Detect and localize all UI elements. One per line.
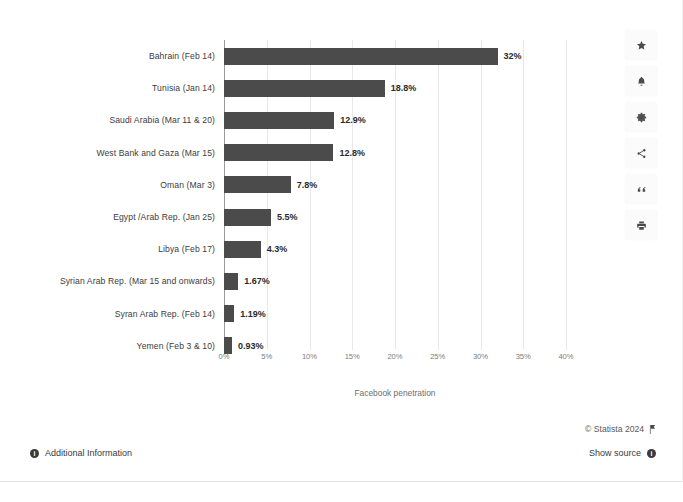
bar-row[interactable]: Syran Arab Rep. (Feb 14)1.19% (224, 298, 566, 330)
settings-gear-icon (636, 112, 647, 123)
plot-area: Bahrain (Feb 14)32%Tunisia (Jan 14)18.8%… (224, 40, 566, 362)
additional-information-label: Additional Information (45, 448, 132, 458)
notification-bell-icon (636, 76, 647, 87)
print-icon (636, 220, 647, 231)
share-button[interactable] (625, 138, 657, 168)
print-button[interactable] (625, 210, 657, 240)
x-axis-tick-label: 25% (430, 352, 445, 361)
bar-category-label: Tunisia (Jan 14) (152, 83, 215, 93)
notification-bell-button[interactable] (625, 66, 657, 96)
bar-row[interactable]: Oman (Mar 3)7.8% (224, 169, 566, 201)
show-source-link[interactable]: Show source i (589, 448, 656, 458)
bar-category-label: Bahrain (Feb 14) (149, 51, 215, 61)
bar-category-label: Egypt /Arab Rep. (Jan 25) (113, 212, 215, 222)
bar-value-label: 1.19% (240, 309, 266, 319)
favorite-star-button[interactable] (625, 30, 657, 60)
x-axis-tick-label: 35% (516, 352, 531, 361)
bar-value-label: 18.8% (391, 83, 417, 93)
flag-icon (649, 425, 656, 434)
bar-category-label: Oman (Mar 3) (160, 180, 215, 190)
bar[interactable]: 4.3% (224, 241, 261, 258)
bar-value-label: 12.9% (340, 115, 366, 125)
bar[interactable]: 18.8% (224, 80, 385, 97)
bar[interactable]: 7.8% (224, 176, 291, 193)
bar[interactable]: 12.9% (224, 112, 334, 129)
bar-category-label: Syran Arab Rep. (Feb 14) (115, 309, 215, 319)
x-axis-tick-label: 5% (261, 352, 272, 361)
statista-chart-card: Bahrain (Feb 14)32%Tunisia (Jan 14)18.8%… (0, 0, 683, 482)
bar-row[interactable]: Bahrain (Feb 14)32% (224, 40, 566, 72)
bar-row[interactable]: Tunisia (Jan 14)18.8% (224, 72, 566, 104)
bar-category-label: West Bank and Gaza (Mar 15) (96, 148, 215, 158)
copyright-text: © Statista 2024 (585, 424, 644, 434)
bar-value-label: 7.8% (297, 180, 318, 190)
bar[interactable]: 1.19% (224, 305, 234, 322)
bar-rows: Bahrain (Feb 14)32%Tunisia (Jan 14)18.8%… (224, 40, 566, 350)
bar[interactable]: 32% (224, 48, 498, 65)
bar-value-label: 32% (504, 51, 522, 61)
x-axis-tick-label: 15% (345, 352, 360, 361)
x-axis-tick-label: 30% (473, 352, 488, 361)
bar-value-label: 5.5% (277, 212, 298, 222)
info-icon: i (30, 449, 39, 458)
cite-quote-button[interactable] (625, 174, 657, 204)
bar[interactable]: 1.67% (224, 273, 238, 290)
favorite-star-icon (636, 40, 647, 51)
bar-category-label: Saudi Arabia (Mar 11 & 20) (109, 115, 215, 125)
bar-row[interactable]: West Bank and Gaza (Mar 15)12.8% (224, 137, 566, 169)
bar-category-label: Yemen (Feb 3 & 10) (137, 341, 215, 351)
x-axis-tick-label: 20% (387, 352, 402, 361)
x-axis-tick-label: 40% (558, 352, 573, 361)
bar-value-label: 4.3% (267, 244, 288, 254)
cite-quote-icon (636, 184, 647, 195)
bar-value-label: 1.67% (244, 276, 270, 286)
bar-row[interactable]: Egypt /Arab Rep. (Jan 25)5.5% (224, 201, 566, 233)
bar[interactable]: 5.5% (224, 209, 271, 226)
info-icon: i (647, 449, 656, 458)
bar-category-label: Libya (Feb 17) (158, 244, 215, 254)
bar-row[interactable]: Saudi Arabia (Mar 11 & 20)12.9% (224, 104, 566, 136)
bar-value-label: 12.8% (339, 148, 365, 158)
x-axis-title: Facebook penetration (224, 388, 566, 398)
bar-row[interactable]: Syrian Arab Rep. (Mar 15 and onwards)1.6… (224, 265, 566, 297)
bar-chart: Bahrain (Feb 14)32%Tunisia (Jan 14)18.8%… (18, 28, 598, 378)
share-icon (636, 148, 647, 159)
settings-gear-button[interactable] (625, 102, 657, 132)
bar-category-label: Syrian Arab Rep. (Mar 15 and onwards) (60, 276, 215, 286)
copyright: © Statista 2024 (585, 424, 656, 434)
tool-rail (624, 30, 658, 240)
additional-information-link[interactable]: i Additional Information (30, 448, 132, 458)
bar[interactable]: 12.8% (224, 144, 333, 161)
x-axis-tick-label: 10% (302, 352, 317, 361)
bar-row[interactable]: Libya (Feb 17)4.3% (224, 233, 566, 265)
gridline (566, 40, 567, 350)
x-axis-tick-label: 0% (219, 352, 230, 361)
show-source-label: Show source (589, 448, 641, 458)
x-axis: 0%5%10%15%20%25%30%35%40% (224, 350, 566, 362)
